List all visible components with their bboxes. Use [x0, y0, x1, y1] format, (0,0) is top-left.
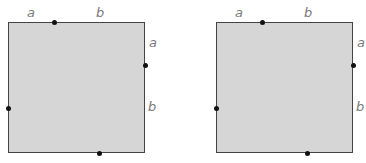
division-point-right [351, 63, 356, 68]
division-point-bottom [97, 151, 102, 156]
label-top-a: a [235, 6, 243, 19]
label-top-a: a [27, 6, 35, 19]
label-top-b: b [304, 6, 312, 19]
division-point-left [6, 106, 11, 111]
square-shape [216, 22, 353, 153]
division-point-top [260, 20, 265, 25]
square-shape [8, 22, 145, 153]
division-point-bottom [305, 151, 310, 156]
label-right-b: b [148, 100, 156, 113]
label-right-a: a [149, 36, 157, 49]
label-right-a: a [357, 36, 365, 49]
label-right-b: b [356, 100, 364, 113]
division-point-right [143, 63, 148, 68]
label-top-b: b [96, 6, 104, 19]
division-point-left [214, 106, 219, 111]
division-point-top [52, 20, 57, 25]
